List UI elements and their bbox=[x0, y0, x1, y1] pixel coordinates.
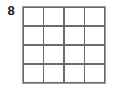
grid-cell[interactable] bbox=[65, 27, 84, 44]
grid-container bbox=[22, 6, 106, 84]
grid-cell[interactable] bbox=[65, 46, 84, 63]
grid-cell[interactable] bbox=[24, 65, 43, 82]
grid-cell[interactable] bbox=[65, 8, 84, 25]
grid-cell[interactable] bbox=[44, 27, 63, 44]
grid-cell[interactable] bbox=[44, 8, 63, 25]
grid-cell[interactable] bbox=[24, 8, 43, 25]
grid-cell[interactable] bbox=[85, 8, 104, 25]
grid-cell[interactable] bbox=[44, 65, 63, 82]
grid-figure: 8 bbox=[0, 0, 115, 92]
grid-cell[interactable] bbox=[24, 27, 43, 44]
row-label: 8 bbox=[4, 3, 18, 19]
grid-cell[interactable] bbox=[24, 46, 43, 63]
grid-cell[interactable] bbox=[85, 65, 104, 82]
grid-cell[interactable] bbox=[44, 46, 63, 63]
grid-cell[interactable] bbox=[65, 65, 84, 82]
grid-cell[interactable] bbox=[85, 46, 104, 63]
grid-cell[interactable] bbox=[85, 27, 104, 44]
